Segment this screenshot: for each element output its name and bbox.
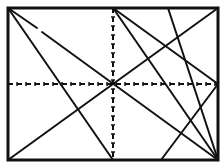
line-topleft-to-bottomright-a xyxy=(8,8,37,28)
geometry-diagram xyxy=(0,0,223,166)
